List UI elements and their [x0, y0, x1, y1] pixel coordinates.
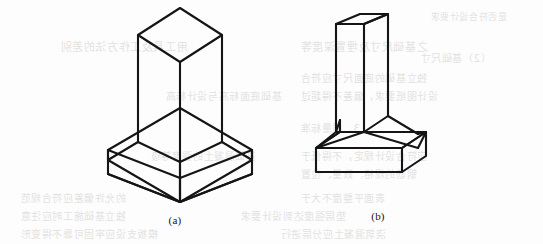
bleed-text-line: 是否符合设计要求 [430, 10, 507, 23]
frustum-left-face-a [108, 142, 180, 202]
bleed-text-line: 独立基础施工时应注意 [20, 208, 126, 223]
bleed-text-line: 浇筑混凝土应分层进行 [280, 226, 386, 241]
frustum-right-face-a [180, 142, 252, 202]
page-bleed-through-text: 用工具及工作方法的差别之基础尺寸及埋置深度等是否符合设计要求（2）基础尺寸独立基… [0, 0, 543, 244]
frustum-right-fold-b [364, 132, 418, 148]
figure-a-caption: (a) [169, 214, 182, 226]
bleed-text-line: 垫层强度达到设计要求 [240, 208, 346, 223]
column-right-face-b [364, 14, 388, 132]
column-left-edge-a [138, 35, 180, 162]
figure-b-drawing [308, 12, 438, 197]
bleed-text-line: 模板支设应牢固可靠不得变形 [20, 226, 158, 241]
column-front-face-b [336, 24, 364, 132]
column-footing-isometric-a [95, 2, 260, 207]
slab-front-face-b [316, 148, 402, 172]
column-footing-oblique-b [308, 12, 438, 197]
column-top-face-b [336, 14, 388, 24]
figure-a-caption-wrap: (a) [155, 214, 195, 226]
figure-a-drawing [95, 2, 260, 207]
figure-b-caption-wrap: (b) [358, 210, 398, 222]
scanned-page: 用工具及工作方法的差别之基础尺寸及埋置深度等是否符合设计要求（2）基础尺寸独立基… [0, 0, 543, 244]
frustum-front-fold-b [316, 132, 364, 148]
column-top-face-a [138, 8, 222, 62]
figure-b-caption: (b) [371, 210, 384, 222]
